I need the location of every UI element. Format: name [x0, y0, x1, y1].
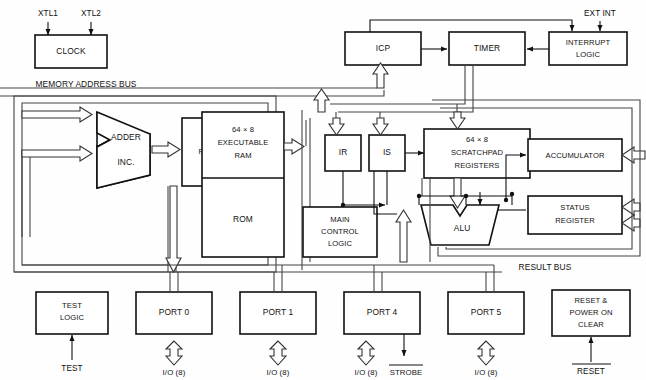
port4-label: PORT 4: [367, 307, 398, 317]
block-clock-label: CLOCK: [56, 46, 86, 56]
io-arrow-port5: [478, 341, 494, 365]
ram-line2: EXECUTABLE: [218, 138, 269, 147]
signal-ext-int: EXT INT: [584, 9, 616, 18]
signal-reset: RESET: [577, 367, 605, 376]
scratchpad-line1: 64 × 8: [466, 135, 488, 144]
bus-up-to-control: [396, 210, 411, 262]
test-logic-line2: LOGIC: [60, 313, 85, 322]
block-ir: IR: [325, 135, 361, 171]
bus-adder-to-mar: [152, 142, 180, 157]
signal-test: TEST: [61, 364, 82, 373]
block-scratchpad-registers: 64 × 8 SCRATCHPAD REGISTERS: [424, 129, 530, 178]
result-bus: RESULT BUS: [432, 100, 640, 272]
block-adder-inc: ADDER INC.: [97, 112, 150, 188]
block-inc-label: INC.: [117, 157, 134, 167]
io-arrow-port0: [166, 341, 182, 365]
mcl-line3: LOGIC: [328, 239, 353, 248]
ram-line1: 64 × 8: [232, 125, 254, 134]
block-ram-rom: 64 × 8 EXECUTABLE RAM ROM: [202, 112, 284, 257]
block-port1: PORT 1 I/O (8): [240, 265, 316, 377]
block-port5: PORT 5 I/O (8): [448, 265, 524, 377]
port1-io-label: I/O (8): [267, 368, 290, 377]
bus-ram-out: [284, 139, 304, 154]
block-status-rect: [528, 196, 622, 234]
icp-label: ICP: [376, 43, 391, 53]
interrupt-line1: INTERRUPT: [566, 38, 611, 47]
block-port0: PORT 0 I/O (8): [136, 272, 212, 377]
lower-bus-spine: [14, 265, 502, 272]
block-icp: ICP: [345, 32, 421, 65]
test-logic-line1: TEST: [62, 301, 82, 310]
microcontroller-block-diagram: XTL1 XTL2 CLOCK MEMORY ADDRESS BUS ADDER…: [0, 0, 646, 380]
wire-ir-down: [343, 171, 385, 205]
is-label: IS: [383, 147, 391, 157]
alu-label: ALU: [454, 223, 471, 233]
signal-xtl2: XTL2: [81, 9, 101, 18]
signal-strobe: STROBE: [390, 368, 423, 377]
port5-label: PORT 5: [471, 307, 502, 317]
port4-io-label: I/O (8): [355, 368, 378, 377]
bus-into-ir: [329, 118, 344, 135]
block-main-control-logic: MAIN CONTROL LOGIC: [303, 207, 377, 257]
status-line2: REGISTER: [555, 216, 595, 225]
port0-label: PORT 0: [159, 307, 190, 317]
scratchpad-line3: REGISTERS: [455, 161, 500, 170]
signal-xtl1: XTL1: [38, 9, 58, 18]
bus-to-icp: [373, 63, 388, 88]
rom-label: ROM: [233, 214, 253, 224]
bus-timer-to-control: [314, 89, 329, 112]
io-arrow-port4: [358, 341, 374, 365]
bus-result-to-status-1: [622, 199, 640, 215]
block-interrupt-logic-rect: [549, 32, 627, 65]
bus-into-scratchpad: [450, 112, 465, 129]
reset-line1: RESET &: [574, 296, 607, 305]
io-arrow-port1: [270, 341, 286, 365]
block-accumulator: ACCUMULATOR: [528, 139, 622, 171]
interrupt-line2: LOGIC: [576, 50, 601, 59]
status-line1: STATUS: [560, 203, 589, 212]
result-bus-label: RESULT BUS: [519, 262, 572, 272]
ir-label: IR: [339, 147, 348, 157]
block-port4: PORT 4 I/O (8) STROBE: [344, 265, 423, 377]
junction-dot-alu-acc: [504, 198, 508, 202]
wire-icp-to-interrupt: [370, 20, 572, 32]
ram-line3: RAM: [234, 151, 251, 160]
mcl-line2: CONTROL: [321, 227, 359, 236]
block-is: IS: [369, 135, 405, 171]
bus-result-to-accumulator: [622, 147, 645, 163]
port1-label: PORT 1: [263, 307, 294, 317]
mcl-line1: MAIN: [330, 215, 349, 224]
bus-result-to-status-2: [622, 215, 640, 231]
block-interrupt-logic: INTERRUPT LOGIC: [549, 32, 627, 65]
accumulator-label: ACCUMULATOR: [545, 151, 604, 160]
clock-group: XTL1 XTL2 CLOCK: [35, 9, 107, 68]
reset-line3: CLEAR: [578, 320, 604, 329]
scratchpad-line2: SCRATCHPAD: [451, 148, 504, 157]
bus-into-is: [373, 118, 388, 135]
block-adder-label: ADDER: [111, 132, 141, 142]
block-timer: TIMER: [449, 32, 525, 65]
block-reset-power-on-clear: RESET & POWER ON CLEAR RESET: [552, 290, 630, 376]
timer-label: TIMER: [474, 43, 501, 53]
port5-io-label: I/O (8): [475, 368, 498, 377]
reset-line2: POWER ON: [570, 308, 613, 317]
bus-scratchpad-to-alu: [450, 178, 465, 208]
block-test-logic: TEST LOGIC TEST: [36, 292, 108, 373]
block-alu: ALU: [421, 205, 499, 245]
block-status-register: STATUS REGISTER: [528, 196, 622, 234]
port0-io-label: I/O (8): [163, 368, 186, 377]
